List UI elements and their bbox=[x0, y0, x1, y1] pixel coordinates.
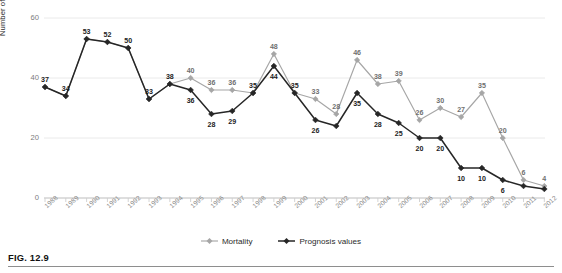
value-label-mortality-1999: 48 bbox=[270, 43, 278, 51]
value-label-mortality-2001: 33 bbox=[312, 88, 320, 96]
value-label-prognosis-2000: 35 bbox=[291, 82, 299, 90]
caption-divider bbox=[8, 266, 554, 267]
value-label-mortality-1997: 36 bbox=[228, 79, 236, 87]
series-marker-1 bbox=[125, 45, 131, 51]
figure-caption-block: FIG. 12.9 bbox=[8, 252, 554, 267]
value-label-prognosis-1993: 33 bbox=[145, 88, 153, 96]
y-tick-20: 20 bbox=[11, 133, 39, 142]
value-label-prognosis-2005: 25 bbox=[395, 130, 403, 138]
value-label-mortality-1995: 40 bbox=[187, 67, 195, 75]
value-label-prognosis-1989: 34 bbox=[62, 85, 70, 93]
series-marker-0 bbox=[521, 177, 526, 182]
value-label-prognosis-1992: 50 bbox=[124, 37, 132, 45]
value-label-prognosis-2008: 10 bbox=[457, 175, 465, 183]
series-marker-0 bbox=[500, 135, 505, 140]
value-label-mortality-2006: 26 bbox=[416, 109, 424, 117]
series-marker-0 bbox=[188, 75, 193, 80]
value-label-prognosis-2001: 26 bbox=[312, 127, 320, 135]
chart-legend: MortalityPrognosis values bbox=[0, 236, 562, 246]
series-marker-0 bbox=[417, 117, 422, 122]
value-label-mortality-2011: 6 bbox=[522, 169, 526, 177]
series-marker-0 bbox=[230, 87, 235, 92]
y-tick-0: 0 bbox=[11, 193, 39, 202]
value-label-prognosis-2007: 20 bbox=[436, 145, 444, 153]
y-tick-60: 60 bbox=[11, 13, 39, 22]
value-label-prognosis-1994: 38 bbox=[166, 73, 174, 81]
legend-label: Mortality bbox=[222, 237, 253, 246]
value-label-mortality-2012: 4 bbox=[542, 175, 546, 183]
value-label-mortality-2009: 35 bbox=[478, 82, 486, 90]
series-marker-0 bbox=[438, 105, 443, 110]
value-label-prognosis-2009: 10 bbox=[478, 175, 486, 183]
value-label-prognosis-2006: 20 bbox=[416, 145, 424, 153]
figure-caption-text: FIG. 12.9 bbox=[8, 252, 554, 263]
legend-item-prognosis[interactable]: Prognosis values bbox=[278, 236, 361, 246]
value-label-prognosis-1991: 52 bbox=[103, 31, 111, 39]
series-line-0 bbox=[45, 39, 544, 186]
value-label-prognosis-1997: 29 bbox=[228, 118, 236, 126]
value-label-mortality-2003: 46 bbox=[353, 49, 361, 57]
series-marker-1 bbox=[63, 93, 69, 99]
legend-label: Prognosis values bbox=[299, 237, 361, 246]
legend-item-mortality[interactable]: Mortality bbox=[201, 236, 253, 246]
series-line-1 bbox=[45, 39, 544, 189]
legend-marker-icon bbox=[278, 236, 295, 246]
value-label-mortality-2004: 38 bbox=[374, 73, 382, 81]
value-label-prognosis-1990: 53 bbox=[83, 28, 91, 36]
value-label-prognosis-1988: 37 bbox=[41, 76, 49, 84]
value-label-mortality-2005: 39 bbox=[395, 70, 403, 78]
value-label-mortality-2002: 28 bbox=[332, 103, 340, 111]
figure-container: Number of diagnosed cases 0204060 198819… bbox=[0, 0, 562, 273]
value-label-prognosis-2003: 35 bbox=[353, 100, 361, 108]
series-marker-1 bbox=[521, 183, 527, 189]
value-label-prognosis-1998: 35 bbox=[249, 82, 257, 90]
series-marker-1 bbox=[42, 84, 48, 90]
series-marker-1 bbox=[105, 39, 111, 45]
value-label-mortality-2007: 30 bbox=[436, 97, 444, 105]
value-label-prognosis-1996: 28 bbox=[207, 121, 215, 129]
value-label-prognosis-2010: 6 bbox=[501, 187, 505, 195]
y-tick-40: 40 bbox=[11, 73, 39, 82]
value-label-prognosis-1995: 36 bbox=[187, 97, 195, 105]
value-label-mortality-1996: 36 bbox=[207, 79, 215, 87]
series-marker-0 bbox=[209, 87, 214, 92]
series-marker-0 bbox=[271, 51, 276, 56]
value-label-mortality-2010: 20 bbox=[499, 127, 507, 135]
legend-marker-icon bbox=[201, 236, 218, 246]
series-marker-0 bbox=[396, 78, 401, 83]
chart-plot-area bbox=[44, 18, 545, 198]
value-label-prognosis-1999: 44 bbox=[270, 73, 278, 81]
line-chart-svg bbox=[44, 18, 545, 198]
value-label-mortality-2008: 27 bbox=[457, 106, 465, 114]
series-marker-1 bbox=[84, 36, 90, 42]
value-label-prognosis-2004: 28 bbox=[374, 121, 382, 129]
